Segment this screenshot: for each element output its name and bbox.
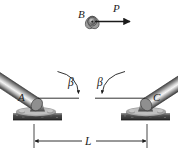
angle-right-label: β <box>96 76 103 89</box>
joint-a-label: A <box>17 91 25 103</box>
joint-b-label: B <box>78 8 85 20</box>
figure-canvas: P β β A B C L <box>0 0 178 154</box>
mechanics-figure: P β β A B C L <box>0 0 178 154</box>
angle-left-label: β <box>67 76 74 89</box>
joint-c-label: C <box>153 91 161 103</box>
force-p-label: P <box>112 2 120 14</box>
span-length-label: L <box>84 135 91 147</box>
